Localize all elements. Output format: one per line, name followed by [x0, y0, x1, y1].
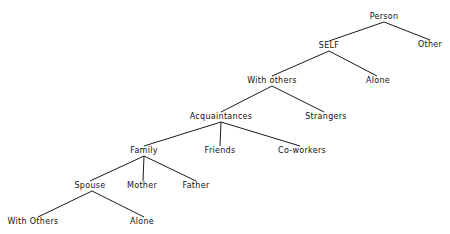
node-alone-self: Alone [366, 77, 390, 85]
node-strangers: Strangers [305, 113, 347, 121]
edge-person-to-self [329, 22, 384, 41]
node-mother: Mother [127, 182, 157, 190]
node-self: SELF [319, 42, 339, 50]
edge-with_others-to-strangers [272, 86, 324, 112]
node-family: Family [130, 147, 158, 155]
edge-acquaintances-to-co_workers [221, 122, 300, 146]
edge-self-to-with_others [272, 51, 329, 76]
node-acquaintances: Acquaintances [190, 113, 253, 121]
node-other: Other [418, 41, 442, 49]
node-co-workers: Co-workers [278, 147, 326, 155]
node-father: Father [183, 182, 210, 190]
node-spouse-with-others: With Others [8, 218, 59, 226]
edge-with_others-to-acquaintances [221, 86, 272, 112]
node-spouse: Spouse [74, 182, 105, 190]
edge-acquaintances-to-friends [220, 122, 221, 146]
edge-acquaintances-to-family [144, 122, 221, 146]
node-friends: Friends [205, 147, 236, 155]
node-with-others: With others [247, 77, 297, 85]
edge-family-to-father [144, 156, 196, 181]
edge-family-to-mother [143, 156, 144, 181]
edge-spouse-to-spouse_with_others [38, 191, 92, 217]
node-spouse-alone: Alone [130, 218, 154, 226]
edge-person-to-other [384, 22, 430, 40]
edge-family-to-spouse [90, 156, 144, 181]
edge-spouse-to-spouse_alone [92, 191, 144, 217]
node-person: Person [370, 13, 399, 21]
edge-self-to-alone_self [329, 51, 377, 76]
